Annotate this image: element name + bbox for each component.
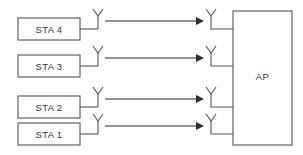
station-group-sta-2: STA 2 — [18, 87, 204, 118]
arrowhead-icon — [196, 122, 204, 130]
sta-2-signal-arrow — [105, 95, 204, 103]
sta-1-signal-arrow — [105, 122, 204, 130]
station-group-sta-1: STA 1 — [18, 114, 204, 145]
network-diagram: STA 4 STA 3 — [0, 0, 303, 155]
antenna-icon — [93, 9, 103, 16]
access-point-group: AP — [233, 11, 292, 145]
sta-3-antenna-icon — [93, 46, 103, 66]
station-group-sta-4: STA 4 — [18, 9, 204, 40]
sta-2-antenna-icon — [93, 87, 103, 107]
ap-antenna-3-icon — [206, 46, 233, 66]
sta-3-label: STA 3 — [36, 61, 63, 72]
diagram-canvas: STA 4 STA 3 — [0, 0, 303, 155]
sta-2-label: STA 2 — [36, 102, 63, 113]
antenna-icon — [211, 94, 233, 107]
antenna-icon — [93, 46, 103, 53]
arrowhead-icon — [196, 95, 204, 103]
station-group-sta-3: STA 3 — [18, 46, 204, 77]
antenna-icon — [211, 53, 233, 66]
arrowhead-icon — [196, 54, 204, 62]
antenna-icon — [93, 87, 103, 94]
ap-antenna-2-icon — [206, 87, 233, 107]
antenna-icon — [206, 114, 216, 121]
antenna-icon — [211, 16, 233, 29]
ap-antenna-4-icon — [206, 9, 233, 29]
arrowhead-icon — [196, 17, 204, 25]
sta-4-antenna-icon — [93, 9, 103, 29]
antenna-icon — [206, 87, 216, 94]
antenna-icon — [206, 46, 216, 53]
sta-4-label: STA 4 — [36, 24, 63, 35]
antenna-icon — [93, 114, 103, 121]
ap-antenna-group — [206, 9, 233, 134]
antenna-icon — [211, 121, 233, 134]
ap-antenna-1-icon — [206, 114, 233, 134]
sta-1-antenna-icon — [93, 114, 103, 134]
sta-3-signal-arrow — [105, 54, 204, 62]
ap-label: AP — [256, 71, 269, 82]
sta-4-signal-arrow — [105, 17, 204, 25]
antenna-icon — [206, 9, 216, 16]
sta-1-label: STA 1 — [36, 129, 63, 140]
